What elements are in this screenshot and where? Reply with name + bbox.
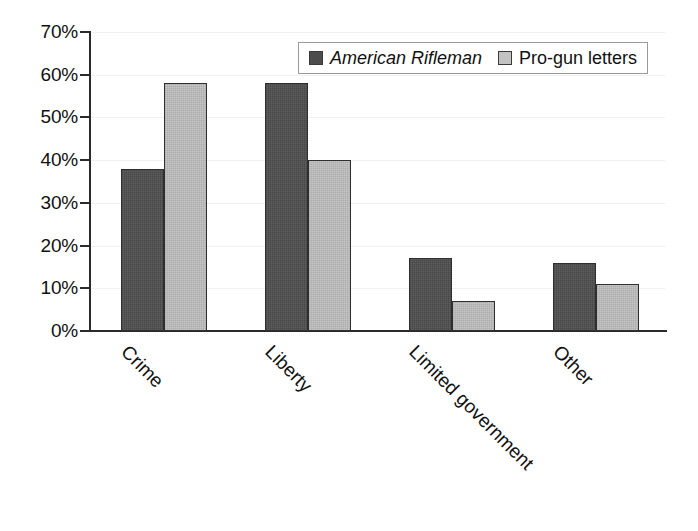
y-axis-tick-label: 60% (6, 65, 78, 84)
bar (308, 160, 351, 331)
y-axis-tick-label: 30% (6, 193, 78, 212)
y-axis-labels: 0%10%20%30%40%50%60%70% (0, 0, 78, 531)
y-axis-tick (80, 330, 89, 332)
y-axis-tick (80, 31, 89, 33)
legend-entry-american-rifleman: American Rifleman (309, 49, 482, 67)
y-axis-tick (80, 116, 89, 118)
chart-legend: American Rifleman Pro-gun letters (298, 42, 648, 74)
legend-label-american-rifleman: American Rifleman (330, 49, 482, 67)
bar (121, 169, 164, 331)
x-axis-tick-label: Other (549, 341, 597, 389)
y-axis-tick-label: 70% (6, 22, 78, 41)
y-axis-tick-label: 50% (6, 107, 78, 126)
y-axis-tick (80, 159, 89, 161)
y-axis-tick-label: 0% (6, 321, 78, 340)
y-axis-tick-label: 40% (6, 150, 78, 169)
bar (409, 258, 452, 331)
y-axis-tick (80, 202, 89, 204)
legend-swatch-american-rifleman (309, 51, 323, 65)
legend-swatch-pro-gun-letters (498, 51, 512, 65)
y-axis-tick (80, 287, 89, 289)
bar (265, 83, 308, 331)
bars-layer (91, 32, 667, 331)
bar (164, 83, 207, 331)
y-axis-tick (80, 245, 89, 247)
legend-label-pro-gun-letters: Pro-gun letters (519, 49, 637, 67)
bar (596, 284, 639, 331)
bar (452, 301, 495, 331)
y-axis-tick-label: 10% (6, 278, 78, 297)
x-axis-tick-label: Liberty (261, 341, 316, 396)
bar (553, 263, 596, 331)
x-axis-tick-label: Crime (117, 341, 168, 392)
y-axis-tick-label: 20% (6, 236, 78, 255)
x-axis-tick-label: Limited government (405, 341, 538, 474)
legend-entry-pro-gun-letters: Pro-gun letters (498, 49, 637, 67)
y-axis-tick (80, 74, 89, 76)
bar-chart: 0%10%20%30%40%50%60%70% CrimeLibertyLimi… (0, 0, 698, 531)
